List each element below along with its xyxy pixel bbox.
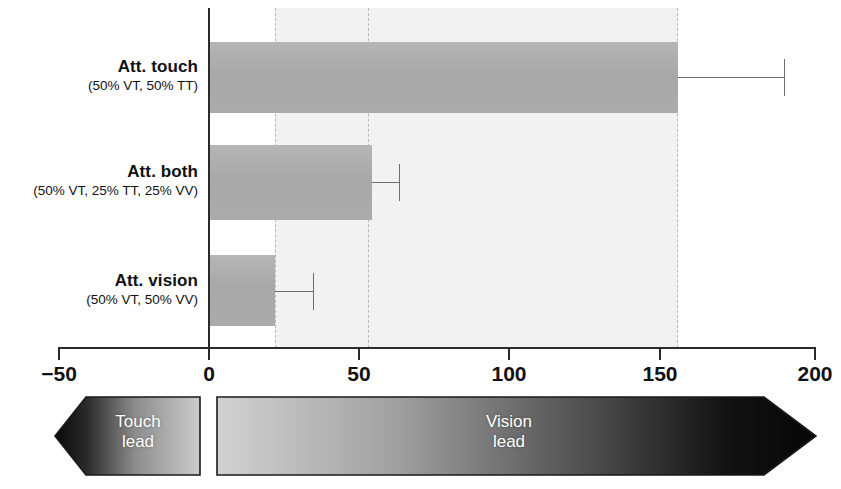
category-label-main: Att. vision xyxy=(0,271,198,290)
x-tick-50 xyxy=(358,347,360,360)
x-tick-100 xyxy=(508,347,510,360)
x-tick-200 xyxy=(814,347,816,360)
category-label-att-both: Att. both (50% VT, 25% TT, 25% VV) xyxy=(0,162,198,198)
plot-area: Att. touch (50% VT, 50% TT) Att. both (5… xyxy=(0,0,841,360)
category-label-main: Att. touch xyxy=(0,57,198,76)
category-label-att-touch: Att. touch (50% VT, 50% TT) xyxy=(0,57,198,93)
category-label-main: Att. both xyxy=(0,162,198,181)
bar-att-both xyxy=(209,145,372,220)
bar-att-vision xyxy=(209,255,275,326)
touch-lead-line1: Touch xyxy=(115,412,160,431)
category-label-sub: (50% VT, 50% VV) xyxy=(0,292,198,307)
x-tick--50 xyxy=(58,347,60,360)
errorbar-cap-att-touch xyxy=(784,59,785,96)
y-axis-line xyxy=(208,8,210,349)
vision-lead-line1: Vision xyxy=(486,412,532,431)
bar-fill xyxy=(209,255,275,326)
bar-fill xyxy=(209,42,678,113)
bar-att-touch xyxy=(209,42,678,113)
x-tick-0 xyxy=(208,347,210,360)
touch-lead-label: Touch lead xyxy=(92,412,184,453)
errorbar-line-att-touch xyxy=(678,77,784,78)
vision-lead-line2: lead xyxy=(493,432,525,451)
legend-arrows: Touch lead Vision lead xyxy=(0,360,841,489)
errorbar-cap-att-both xyxy=(399,164,400,201)
category-label-sub: (50% VT, 50% TT) xyxy=(0,78,198,93)
errorbar-cap-att-vision xyxy=(313,273,314,310)
x-tick-150 xyxy=(659,347,661,360)
vision-lead-label: Vision lead xyxy=(454,412,564,453)
category-label-sub: (50% VT, 25% TT, 25% VV) xyxy=(0,183,198,198)
errorbar-line-att-vision xyxy=(275,291,314,292)
category-label-att-vision: Att. vision (50% VT, 50% VV) xyxy=(0,271,198,307)
x-axis-line xyxy=(59,347,816,349)
bar-fill xyxy=(209,145,372,220)
errorbar-line-att-both xyxy=(372,182,400,183)
touch-lead-line2: lead xyxy=(122,432,154,451)
chart-figure: Att. touch (50% VT, 50% TT) Att. both (5… xyxy=(0,0,841,489)
